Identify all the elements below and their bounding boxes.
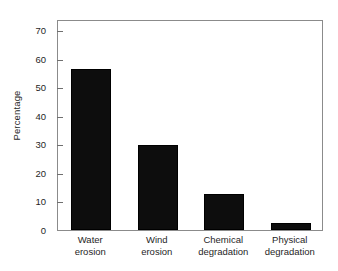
x-axis-label-line-2: erosion	[57, 246, 124, 258]
bar[interactable]	[204, 194, 244, 230]
y-axis-tick-label: 30	[35, 138, 46, 152]
y-axis-tick-label: 60	[35, 53, 46, 67]
x-axis-label-line-1: Physical	[272, 234, 307, 245]
x-axis-label-line-1: Wind	[146, 234, 168, 245]
y-axis-tick-label: 40	[35, 110, 46, 124]
x-axis-category-label: Physicaldegradation	[257, 234, 324, 257]
x-axis-label-line-2: erosion	[124, 246, 191, 258]
x-axis-category-label: Watererosion	[57, 234, 124, 257]
x-axis-label-line-2: degradation	[257, 246, 324, 258]
y-axis-tick-label: 70	[35, 24, 46, 38]
plot-area	[57, 20, 323, 231]
y-axis-title-text: Percentage	[11, 90, 22, 140]
x-axis-label-line-2: degradation	[190, 246, 257, 258]
bar-chart-figure: Percentage 010203040506070WatererosionWi…	[0, 0, 338, 271]
bar[interactable]	[271, 223, 311, 230]
y-axis-tick-label: 0	[41, 224, 46, 238]
x-axis-category-label: Chemicaldegradation	[190, 234, 257, 257]
y-axis-tick-label: 10	[35, 195, 46, 209]
x-axis-label-line-1: Water	[78, 234, 103, 245]
y-axis-tick-label: 20	[35, 167, 46, 181]
y-axis-title: Percentage	[8, 0, 24, 231]
bar[interactable]	[138, 145, 178, 230]
x-axis-label-line-1: Chemical	[203, 234, 243, 245]
y-axis-tick-label: 50	[35, 81, 46, 95]
x-axis-category-label: Winderosion	[124, 234, 191, 257]
bar[interactable]	[71, 69, 111, 230]
